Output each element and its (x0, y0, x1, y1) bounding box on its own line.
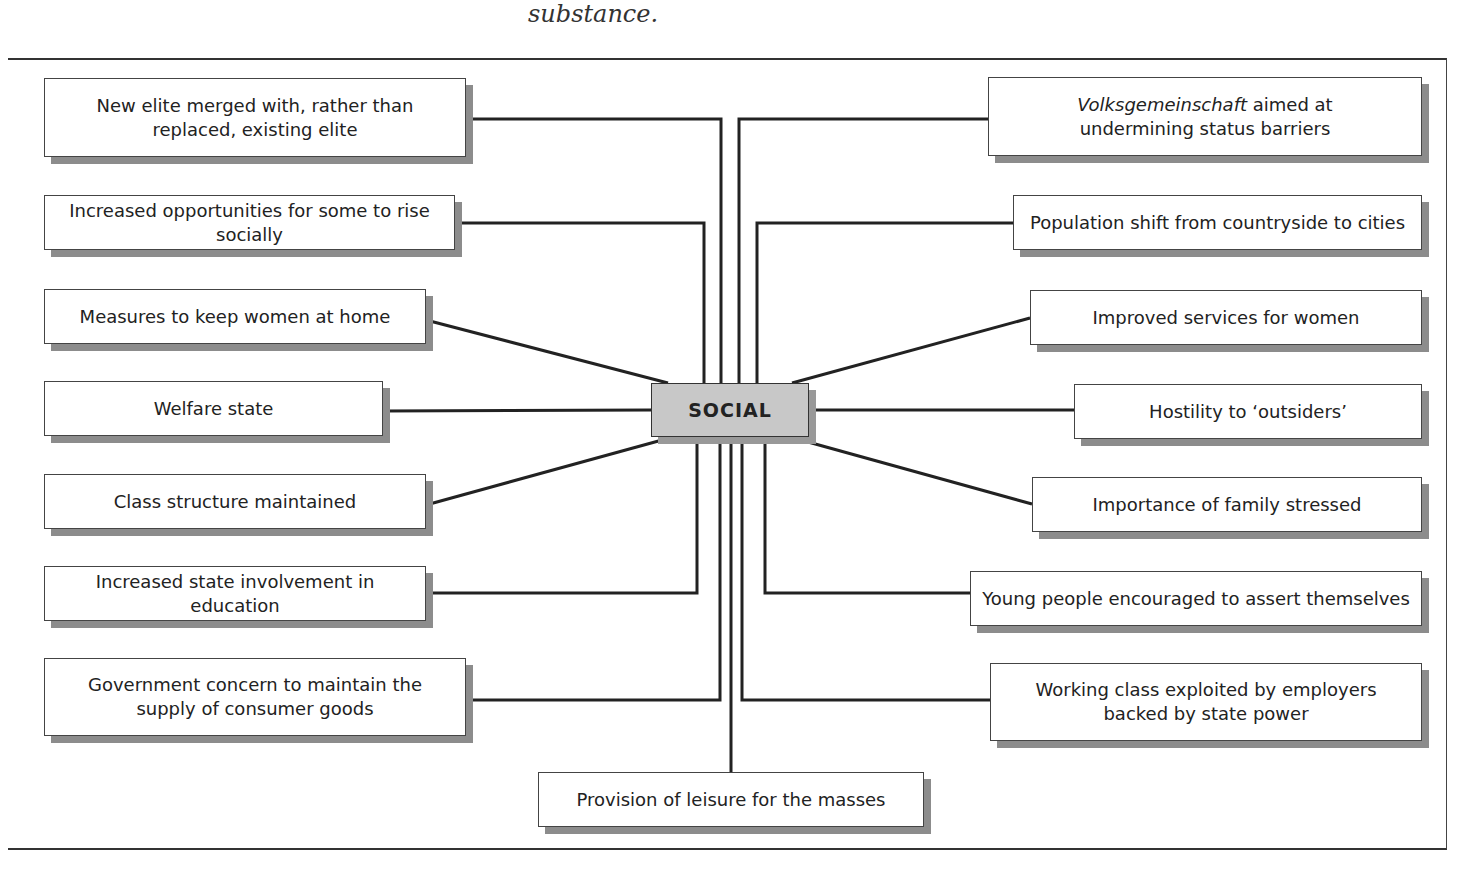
node-leisure: Provision of leisure for the masses (538, 772, 924, 827)
node-new-elite: New elite merged with, rather thanreplac… (44, 78, 466, 157)
node-text: Increased state involvement in education (53, 570, 417, 618)
center-node-social: SOCIAL (651, 383, 809, 437)
node-population-shift: Population shift from countryside to cit… (1013, 195, 1422, 250)
node-text: New elite merged with, rather than (97, 95, 414, 116)
node-text: Improved services for women (1093, 306, 1360, 330)
node-text: undermining status barriers (1080, 118, 1331, 139)
node-text: Importance of family stressed (1093, 493, 1362, 517)
node-rise-socially: Increased opportunities for some to rise… (44, 195, 455, 250)
node-text: Government concern to maintain the (88, 674, 422, 695)
node-women-at-home: Measures to keep women at home (44, 289, 426, 344)
node-text: Welfare state (154, 397, 274, 421)
node-working-class: Working class exploited by employersback… (990, 663, 1422, 741)
node-text: aimed at (1247, 94, 1333, 115)
node-class-structure: Class structure maintained (44, 474, 426, 529)
node-text: Young people encouraged to assert themse… (982, 587, 1410, 611)
node-hostility-outsiders: Hostility to ‘outsiders’ (1074, 384, 1422, 439)
node-education: Increased state involvement in education (44, 566, 426, 621)
node-family-stressed: Importance of family stressed (1032, 477, 1422, 532)
node-text: Measures to keep women at home (80, 305, 391, 329)
node-text: Increased opportunities for some to rise… (53, 199, 446, 247)
node-text: Working class exploited by employers (1035, 679, 1376, 700)
node-text: Class structure maintained (114, 490, 356, 514)
node-young-people: Young people encouraged to assert themse… (970, 571, 1422, 626)
node-services-women: Improved services for women (1030, 290, 1422, 345)
node-text: Provision of leisure for the masses (577, 788, 886, 812)
node-volksgemeinschaft: Volksgemeinschaft aimed atundermining st… (988, 77, 1422, 156)
node-text: supply of consumer goods (136, 698, 373, 719)
node-text: backed by state power (1103, 703, 1308, 724)
node-text-italic: Volksgemeinschaft (1077, 94, 1247, 115)
node-text: replaced, existing elite (152, 119, 357, 140)
node-welfare-state: Welfare state (44, 381, 383, 436)
node-text: Hostility to ‘outsiders’ (1149, 400, 1347, 424)
node-text: Population shift from countryside to cit… (1030, 211, 1405, 235)
node-consumer-goods: Government concern to maintain thesupply… (44, 658, 466, 736)
